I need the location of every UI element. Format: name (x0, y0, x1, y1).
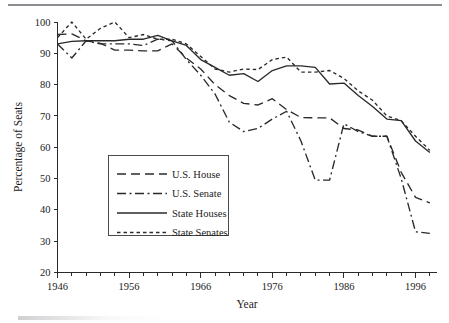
x-tick-group (58, 273, 430, 278)
x-tick-label: 1946 (47, 281, 68, 292)
y-tick-label: 70 (40, 111, 51, 122)
legend-label-2: State Houses (172, 208, 227, 219)
figure-canvas: 2030405060708090100 19461956196619761986… (0, 0, 449, 323)
y-tick-label: 20 (40, 267, 51, 278)
legend: U.S. HouseU.S. SenateState HousesState S… (109, 156, 229, 239)
y-tick-label: 40 (40, 204, 51, 215)
x-axis-title: Year (236, 298, 257, 310)
line-chart: 2030405060708090100 19461956196619761986… (0, 0, 449, 323)
x-tick-label-group: 194619561966197619861996 (47, 281, 426, 292)
legend-label-3: State Senates (172, 227, 228, 238)
y-tick-group (54, 22, 58, 273)
x-tick-label: 1966 (190, 281, 211, 292)
x-tick-label: 1976 (262, 281, 283, 292)
series-line-2 (58, 35, 430, 152)
y-axis-title: Percentage of Seats (12, 101, 25, 192)
x-tick-label: 1956 (119, 281, 140, 292)
x-tick-label: 1986 (333, 281, 354, 292)
y-tick-label: 30 (40, 236, 51, 247)
y-tick-label: 80 (40, 79, 51, 90)
y-tick-label: 90 (40, 48, 51, 59)
y-tick-label-group: 2030405060708090100 (35, 17, 51, 279)
y-tick-label: 100 (35, 17, 51, 28)
x-tick-label: 1996 (405, 281, 426, 292)
y-tick-label: 60 (40, 142, 51, 153)
y-tick-label: 50 (40, 173, 51, 184)
legend-label-1: U.S. Senate (172, 188, 222, 199)
legend-label-0: U.S. House (172, 169, 220, 180)
